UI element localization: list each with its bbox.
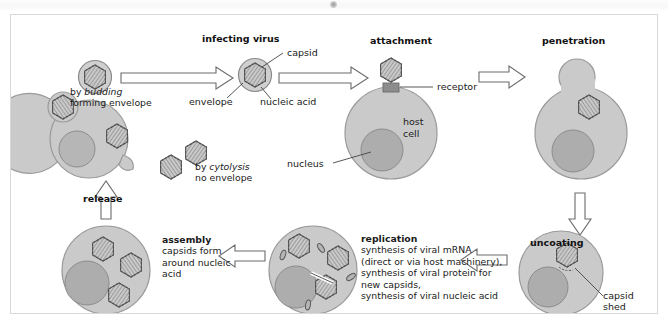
cytolysis-emphasis: cytolysis <box>209 161 249 172</box>
replication-cell-group <box>269 226 357 313</box>
annotation-envelope: envelope <box>189 96 233 108</box>
assembly-line-2: around nucleic <box>162 257 231 268</box>
budding-line-2: forming envelope <box>70 97 152 108</box>
diagram-panel: infecting virus capsid envelope nucleic … <box>10 14 658 314</box>
arrow-to-uncoating <box>569 193 591 235</box>
annotation-host-cell-line-2: cell <box>403 128 419 140</box>
budding-prefix: by <box>70 86 84 97</box>
scan-dot-icon <box>330 1 337 8</box>
penetration-group <box>535 59 627 179</box>
cytolysis-line-2: no envelope <box>195 172 252 183</box>
cytolysis-prefix: by <box>195 161 209 172</box>
annotation-nucleus: nucleus <box>287 158 324 170</box>
top-scan-artifact <box>0 0 668 11</box>
replication-line-4: new capsids, <box>361 279 421 290</box>
annotation-receptor: receptor <box>437 81 477 93</box>
annotation-capsid-shed-line-1: capsid <box>603 290 634 302</box>
stage-title-attachment: attachment <box>370 35 432 47</box>
assembly-cell-group <box>62 226 150 313</box>
annotation-nucleic-acid: nucleic acid <box>260 96 316 108</box>
cytolysis-label-block: by cytolysis no envelope <box>195 161 252 184</box>
stage-title-release: release <box>83 193 122 205</box>
budding-label-block: by budding forming envelope <box>70 86 152 109</box>
annotation-capsid: capsid <box>287 47 318 59</box>
annotation-host-cell-line-1: host <box>403 116 424 128</box>
budding-emphasis: budding <box>84 86 122 97</box>
annotation-capsid-shed-line-2: shed <box>603 301 626 313</box>
assembly-line-1: capsids form <box>162 245 222 256</box>
replication-line-5: synthesis of viral nucleic acid <box>361 290 498 301</box>
figure-root: infecting virus capsid envelope nucleic … <box>0 0 668 326</box>
arrow-to-penetration <box>479 66 525 88</box>
stage-title-assembly: assembly <box>162 234 211 245</box>
assembly-text-block: assembly capsids form around nucleic aci… <box>162 234 231 280</box>
replication-line-2: (direct or via host machinery), <box>361 256 502 267</box>
stage-title-replication: replication <box>361 233 417 244</box>
arrow-to-attachment <box>279 67 368 89</box>
stage-title-penetration: penetration <box>542 35 605 47</box>
stage-title-uncoating: uncoating <box>530 237 583 249</box>
replication-line-3: synthesis of viral protein for <box>361 267 492 278</box>
virus-cycle-graphic <box>11 15 657 313</box>
replication-line-1: synthesis of viral mRNA <box>361 244 472 255</box>
infecting-virus-group <box>227 53 283 99</box>
replication-text-block: replication synthesis of viral mRNA (dir… <box>361 233 502 301</box>
stage-title-infecting-virus: infecting virus <box>202 33 279 45</box>
assembly-line-3: acid <box>162 268 181 279</box>
